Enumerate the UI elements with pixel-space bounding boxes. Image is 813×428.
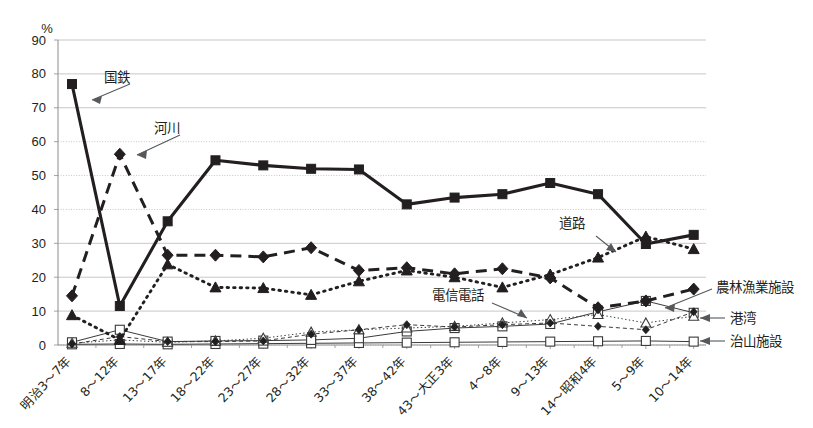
x-axis-tick-label: 9〜13年 bbox=[507, 353, 552, 400]
y-axis-tick-label: 30 bbox=[32, 236, 46, 251]
y-axis-tick-label: 80 bbox=[32, 66, 46, 81]
y-axis-ticks bbox=[54, 40, 58, 345]
x-axis-tick-label: 13〜17年 bbox=[119, 353, 169, 406]
data-point-marker bbox=[641, 240, 650, 249]
annotation-label-doro: 道路 bbox=[559, 215, 586, 231]
x-axis-labels: 明治3〜7年8〜12年13〜17年18〜22年23〜27年28〜32年33〜37… bbox=[17, 353, 696, 419]
data-point-marker bbox=[402, 338, 411, 347]
data-point-marker bbox=[497, 282, 508, 292]
x-axis-tick-label: 28〜32年 bbox=[263, 353, 313, 406]
data-point-marker bbox=[689, 337, 698, 346]
y-axis-tick-label: 20 bbox=[32, 270, 46, 285]
y-axis-labels: 0102030405060708090 bbox=[32, 33, 46, 353]
data-point-marker bbox=[450, 193, 459, 202]
chart-container: % 0102030405060708090 明治3〜7年8〜12年13〜17年1… bbox=[0, 0, 813, 428]
data-point-marker bbox=[688, 283, 699, 295]
data-point-marker bbox=[258, 251, 269, 263]
data-point-marker bbox=[307, 164, 316, 173]
data-point-marker bbox=[641, 336, 650, 345]
annotation-label-norin-gyogyo: 農林漁業施設 bbox=[716, 279, 795, 295]
data-point-marker bbox=[688, 244, 699, 254]
annotation-chisan: 治山施設 bbox=[700, 333, 783, 349]
data-point-marker bbox=[689, 230, 698, 239]
annotation-norin-gyogyo: 農林漁業施設 bbox=[665, 279, 795, 312]
annotation-denshin-denwa: 電信電話 bbox=[432, 287, 527, 318]
annotation-kasen: 河川 bbox=[137, 120, 180, 159]
data-point-marker bbox=[594, 190, 603, 199]
data-point-marker bbox=[594, 322, 601, 330]
data-point-marker bbox=[115, 302, 124, 311]
series-kowan bbox=[68, 296, 699, 346]
x-axis-tick-label: 18〜22年 bbox=[167, 353, 217, 406]
data-point-marker bbox=[497, 263, 508, 275]
gridlines bbox=[58, 40, 706, 345]
line-chart: % 0102030405060708090 明治3〜7年8〜12年13〜17年1… bbox=[0, 0, 813, 428]
data-point-marker bbox=[402, 200, 411, 209]
data-point-marker bbox=[594, 337, 603, 346]
annotation-label-kokutetsu: 国鉄 bbox=[104, 69, 131, 85]
data-point-marker bbox=[211, 156, 220, 165]
data-point-marker bbox=[546, 337, 555, 346]
y-axis-tick-label: 50 bbox=[32, 168, 46, 183]
data-point-marker bbox=[162, 249, 173, 261]
data-point-marker bbox=[546, 179, 555, 188]
x-axis-tick-label: 8〜12年 bbox=[77, 353, 122, 400]
data-point-marker bbox=[498, 190, 507, 199]
x-axis-tick-label: 10〜14年 bbox=[645, 353, 695, 406]
data-point-marker bbox=[498, 337, 507, 346]
data-point-marker bbox=[259, 161, 268, 170]
x-axis-tick-label: 38〜42年 bbox=[359, 353, 409, 406]
y-axis-tick-label: 40 bbox=[32, 202, 46, 217]
annotation-kowan: 港湾 bbox=[700, 310, 756, 326]
data-point-marker bbox=[163, 217, 172, 226]
data-point-marker bbox=[68, 80, 77, 89]
y-axis-tick-label: 10 bbox=[32, 304, 46, 319]
data-point-marker bbox=[67, 290, 78, 302]
x-axis-tick-label: 5〜9年 bbox=[609, 353, 649, 394]
y-axis-tick-label: 70 bbox=[32, 100, 46, 115]
annotation-doro: 道路 bbox=[559, 215, 616, 252]
x-axis-tick-label: 明治3〜7年 bbox=[17, 353, 74, 413]
x-axis-tick-label: 23〜27年 bbox=[215, 353, 265, 406]
annotation-label-kowan: 港湾 bbox=[730, 310, 756, 326]
data-point-marker bbox=[450, 338, 459, 347]
data-point-marker bbox=[354, 334, 363, 343]
annotation-label-kasen: 河川 bbox=[154, 120, 180, 136]
data-point-marker bbox=[114, 148, 125, 160]
series-doro bbox=[67, 231, 700, 344]
y-axis-tick-label: 90 bbox=[32, 33, 46, 48]
data-point-marker bbox=[353, 264, 364, 276]
data-point-marker bbox=[210, 249, 221, 261]
annotation-label-chisan: 治山施設 bbox=[730, 333, 783, 349]
annotation-label-denshin-denwa: 電信電話 bbox=[432, 287, 484, 303]
x-axis-tick-label: 4〜8年 bbox=[465, 353, 505, 394]
data-point-marker bbox=[354, 165, 363, 174]
y-axis-tick-label: 0 bbox=[39, 338, 46, 353]
x-axis-tick-label: 33〜37年 bbox=[311, 353, 361, 406]
y-axis-tick-label: 60 bbox=[32, 134, 46, 149]
